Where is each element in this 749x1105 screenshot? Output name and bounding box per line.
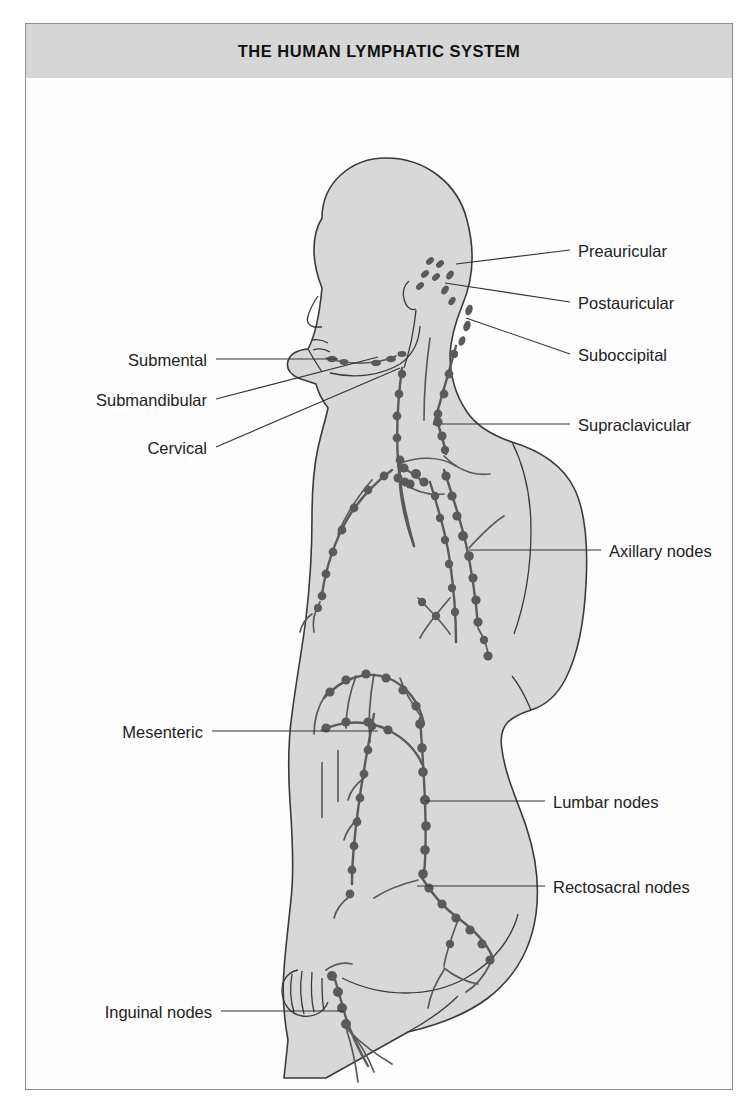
lymphatic-system-illustration: .bodyfill{ fill:#d8d8d8; stroke:#3a3a3a;… [26,78,732,1089]
label-submental: Submental [128,352,207,369]
leader-suboccipital [466,318,570,354]
label-suboccipital: Suboccipital [578,347,667,364]
label-preauricular: Preauricular [578,243,667,260]
label-lumbar-nodes: Lumbar nodes [553,794,659,811]
label-supraclavicular: Supraclavicular [578,417,691,434]
label-postauricular: Postauricular [578,295,674,312]
leader-preauricular [456,250,570,264]
page-title: THE HUMAN LYMPHATIC SYSTEM [238,42,521,61]
figure-header-band: THE HUMAN LYMPHATIC SYSTEM [26,24,732,78]
figure-frame: THE HUMAN LYMPHATIC SYSTEM .bodyfill{ fi… [25,23,733,1090]
label-submandibular: Submandibular [96,392,207,409]
label-rectosacral-nodes: Rectosacral nodes [553,879,690,896]
diagram-canvas: .bodyfill{ fill:#d8d8d8; stroke:#3a3a3a;… [26,78,732,1089]
label-cervical: Cervical [147,440,207,457]
label-mesenteric: Mesenteric [122,724,203,741]
label-inguinal-nodes: Inguinal nodes [105,1004,212,1021]
label-axillary-nodes: Axillary nodes [609,543,712,560]
